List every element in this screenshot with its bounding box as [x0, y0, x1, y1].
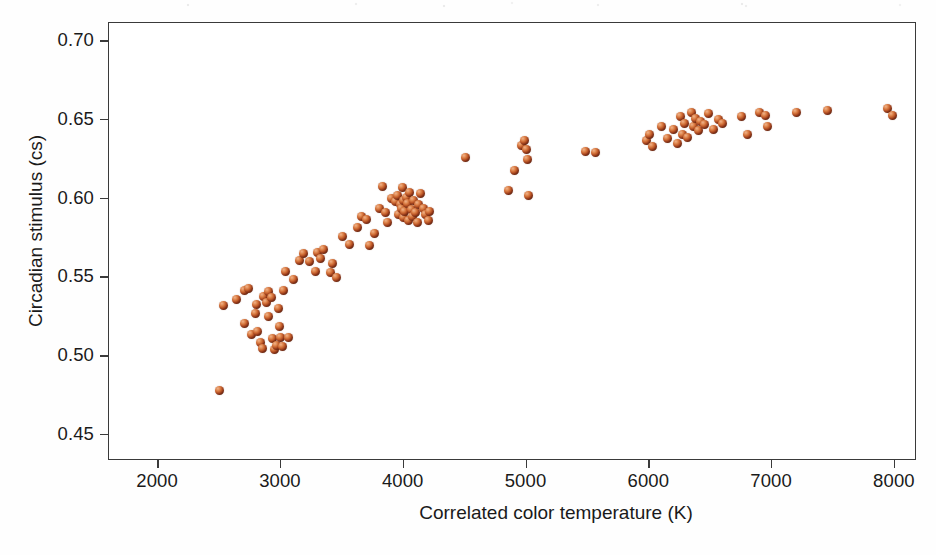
data-point [253, 327, 262, 336]
data-point [311, 267, 320, 276]
data-point [267, 293, 276, 302]
data-point [279, 286, 288, 295]
data-point [581, 147, 590, 156]
x-tick-label: 8000 [873, 470, 915, 492]
x-tick-mark [526, 460, 527, 468]
x-tick-label: 5000 [505, 470, 547, 492]
data-point [244, 284, 253, 293]
data-point [413, 218, 422, 227]
data-point [669, 125, 678, 134]
data-point [591, 148, 600, 157]
data-point [240, 319, 249, 328]
y-tick-mark [100, 119, 108, 120]
x-tick-label: 6000 [628, 470, 670, 492]
data-point [383, 218, 392, 227]
y-tick-mark [100, 434, 108, 435]
data-point [709, 125, 718, 134]
data-point [645, 130, 654, 139]
data-point [365, 241, 374, 250]
x-tick-label: 3000 [259, 470, 301, 492]
data-point [461, 153, 470, 162]
x-tick-mark [771, 460, 772, 468]
data-point [381, 208, 390, 217]
data-point [281, 267, 290, 276]
data-point [284, 333, 293, 342]
x-tick-label: 4000 [382, 470, 424, 492]
x-tick-mark [157, 460, 158, 468]
data-point [663, 134, 672, 143]
data-point [888, 111, 897, 120]
data-point [289, 275, 298, 284]
data-point [763, 122, 772, 131]
data-point [823, 106, 832, 115]
data-point [251, 309, 260, 318]
data-point [718, 119, 727, 128]
x-tick-label: 7000 [750, 470, 792, 492]
y-tick-label: 0.65 [58, 108, 94, 130]
data-point [378, 182, 387, 191]
x-tick-label: 2000 [136, 470, 178, 492]
data-point [504, 186, 513, 195]
data-point [424, 216, 433, 225]
data-point [704, 109, 713, 118]
data-point [353, 223, 362, 232]
data-point [258, 344, 267, 353]
data-point [345, 240, 354, 249]
data-point [792, 108, 801, 117]
y-tick-mark [100, 276, 108, 277]
data-point [416, 189, 425, 198]
data-point [370, 229, 379, 238]
y-tick-label: 0.50 [58, 344, 94, 366]
data-point [275, 322, 284, 331]
data-point [683, 133, 692, 142]
data-point [737, 112, 746, 121]
plot-data-area [109, 23, 915, 459]
data-point [252, 300, 261, 309]
scatter-plot-figure: 2000300040005000600070008000 0.450.500.5… [0, 0, 936, 555]
x-tick-mark [280, 460, 281, 468]
data-point [219, 301, 228, 310]
data-point [332, 273, 341, 282]
y-tick-mark [100, 355, 108, 356]
data-point [362, 215, 371, 224]
y-tick-label: 0.60 [58, 187, 94, 209]
data-point [700, 120, 709, 129]
data-point [328, 259, 337, 268]
y-tick-label: 0.45 [58, 423, 94, 445]
data-point [523, 155, 532, 164]
data-point [657, 122, 666, 131]
data-point [522, 145, 531, 154]
data-point [264, 312, 273, 321]
y-axis-title-text: Circadian stimulus (cs) [25, 135, 46, 327]
data-point [673, 139, 682, 148]
data-point [648, 142, 657, 151]
x-tick-mark [894, 460, 895, 468]
plot-frame [108, 22, 916, 460]
scan-artifact [0, 0, 936, 14]
data-point [305, 257, 314, 266]
y-axis-ticks: 0.450.500.550.600.650.70 [0, 0, 94, 555]
data-point [743, 130, 752, 139]
y-tick-mark [100, 198, 108, 199]
data-point [232, 295, 241, 304]
data-point [761, 111, 770, 120]
data-point [520, 136, 529, 145]
x-axis-title-text: Correlated color temperature (K) [419, 502, 693, 523]
data-point [510, 166, 519, 175]
y-axis-title: Circadian stimulus (cs) [25, 11, 47, 451]
data-point [215, 386, 224, 395]
data-point [278, 342, 287, 351]
y-tick-label: 0.55 [58, 265, 94, 287]
y-tick-mark [100, 40, 108, 41]
data-point [316, 254, 325, 263]
x-tick-mark [403, 460, 404, 468]
y-tick-label: 0.70 [58, 29, 94, 51]
data-point [319, 245, 328, 254]
data-point [338, 232, 347, 241]
data-point [425, 207, 434, 216]
data-point [524, 191, 533, 200]
data-point [274, 304, 283, 313]
x-tick-mark [648, 460, 649, 468]
x-axis-title: Correlated color temperature (K) [0, 502, 936, 524]
